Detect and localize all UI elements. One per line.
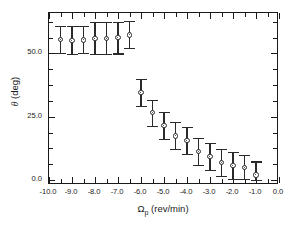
error-bar-cap-upper bbox=[228, 152, 239, 153]
data-point-marker-center bbox=[83, 39, 84, 40]
error-bar-cap-upper bbox=[193, 138, 204, 139]
data-point-marker bbox=[253, 172, 258, 177]
data-point-marker bbox=[219, 160, 224, 165]
error-bar-cap-upper bbox=[78, 26, 89, 27]
error-bar-cap-upper bbox=[67, 26, 78, 27]
data-point-marker-center bbox=[140, 92, 141, 93]
plot-area bbox=[48, 12, 278, 184]
data-series bbox=[49, 13, 277, 183]
error-bar-cap-lower bbox=[113, 53, 124, 54]
data-point-marker bbox=[173, 133, 178, 138]
data-point-marker bbox=[127, 32, 132, 37]
x-axis-tick-label: 0.0 bbox=[263, 187, 293, 196]
data-point-marker-center bbox=[244, 167, 245, 168]
error-bar-cap-lower bbox=[251, 180, 262, 181]
x-axis-title-symbol: Ω bbox=[137, 203, 144, 214]
error-bar-cap-lower bbox=[193, 165, 204, 166]
x-axis-tick bbox=[279, 177, 280, 183]
data-point-marker-center bbox=[129, 34, 130, 35]
error-bar-cap-upper bbox=[136, 79, 147, 80]
data-point-marker bbox=[69, 38, 74, 43]
data-point-marker bbox=[161, 123, 166, 128]
data-point-marker-center bbox=[163, 125, 164, 126]
error-bar-cap-lower bbox=[78, 53, 89, 54]
data-point-marker-center bbox=[221, 162, 222, 163]
y-axis-tick-label: 0.0 bbox=[0, 174, 42, 183]
data-point-marker-center bbox=[186, 140, 187, 141]
data-point-marker-center bbox=[117, 37, 118, 38]
x-axis-title-subscript: p bbox=[145, 209, 149, 216]
chart-figure: θ (deg) Ωp (rev/min) -10.0-9.0-8.0-7.0-6… bbox=[0, 0, 293, 232]
error-bar-cap-upper bbox=[90, 22, 101, 23]
error-bar-cap-lower bbox=[205, 170, 216, 171]
error-bar-cap-upper bbox=[147, 100, 158, 101]
x-axis-title: Ωp (rev/min) bbox=[48, 203, 278, 216]
error-bar-cap-lower bbox=[101, 54, 112, 55]
data-point-marker bbox=[230, 163, 235, 168]
data-point-marker-center bbox=[71, 40, 72, 41]
y-axis-title-symbol: θ bbox=[10, 102, 20, 107]
data-point-marker-center bbox=[255, 174, 256, 175]
error-bar-cap-upper bbox=[216, 149, 227, 150]
error-bar-cap-upper bbox=[55, 26, 66, 27]
data-point-marker-center bbox=[198, 151, 199, 152]
y-axis-tick-label: 25.0 bbox=[0, 111, 42, 120]
data-point-marker-center bbox=[209, 156, 210, 157]
error-bar-cap-lower bbox=[136, 106, 147, 107]
data-point-marker-center bbox=[175, 135, 176, 136]
error-bar-cap-lower bbox=[124, 48, 135, 49]
x-axis-tick bbox=[279, 13, 280, 19]
error-bar-cap-lower bbox=[228, 179, 239, 180]
data-point-marker-center bbox=[94, 38, 95, 39]
error-bar-cap-upper bbox=[124, 21, 135, 22]
error-bar-cap-lower bbox=[170, 149, 181, 150]
error-bar-cap-upper bbox=[239, 155, 250, 156]
error-bar-cap-lower bbox=[55, 53, 66, 54]
data-point-marker bbox=[81, 37, 86, 42]
data-point-marker-center bbox=[60, 39, 61, 40]
x-axis-title-unit: (rev/min) bbox=[151, 203, 188, 214]
error-bar-cap-lower bbox=[90, 54, 101, 55]
data-point-marker-center bbox=[106, 38, 107, 39]
error-bar-cap-lower bbox=[159, 139, 170, 140]
data-point-marker-center bbox=[232, 165, 233, 166]
data-point-marker bbox=[242, 165, 247, 170]
data-point-marker-center bbox=[152, 112, 153, 113]
data-point-marker bbox=[58, 37, 63, 42]
error-bar-cap-lower bbox=[216, 176, 227, 177]
data-point-marker bbox=[104, 36, 109, 41]
data-point-marker bbox=[207, 154, 212, 159]
error-bar-cap-upper bbox=[113, 22, 124, 23]
error-bar-cap-lower bbox=[239, 179, 250, 180]
error-bar-cap-upper bbox=[101, 22, 112, 23]
y-axis-title-unit: (deg) bbox=[9, 77, 20, 99]
error-bar-cap-upper bbox=[170, 122, 181, 123]
data-point-marker bbox=[196, 149, 201, 154]
data-point-marker bbox=[92, 36, 97, 41]
error-bar-cap-upper bbox=[159, 112, 170, 113]
error-bar-cap-upper bbox=[205, 143, 216, 144]
y-axis-tick-label: 50.0 bbox=[0, 47, 42, 56]
data-point-marker bbox=[150, 110, 155, 115]
error-bar-cap-lower bbox=[182, 154, 193, 155]
error-bar-cap-lower bbox=[147, 126, 158, 127]
data-point-marker bbox=[184, 138, 189, 143]
data-point-marker bbox=[115, 35, 120, 40]
error-bar-cap-upper bbox=[251, 161, 262, 162]
error-bar-cap-lower bbox=[67, 54, 78, 55]
error-bar-cap-upper bbox=[182, 127, 193, 128]
data-point-marker bbox=[138, 90, 143, 95]
